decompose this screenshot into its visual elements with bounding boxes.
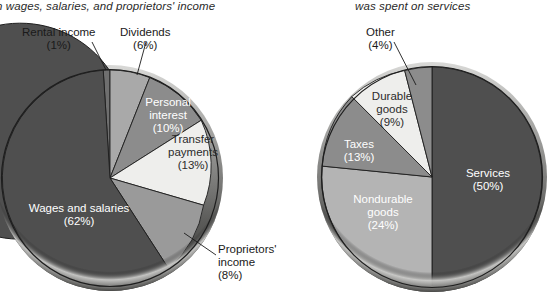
label-wages-and-salaries-value: (62%) — [9, 215, 149, 228]
label-proprietors-income: Proprietors' income (8%) — [218, 243, 276, 283]
label-wages-and-salaries-name: Wages and salaries — [9, 202, 149, 215]
label-rental-income-name: Rental income — [22, 26, 96, 39]
label-personal-interest-name-1: Personal — [133, 96, 203, 109]
label-rental-income-value: (1%) — [22, 39, 96, 52]
label-personal-interest-name-2: interest — [133, 109, 203, 122]
label-nondurable-goods-name-1: Nondurable — [340, 193, 426, 206]
label-dividends-value: (6%) — [120, 39, 171, 52]
label-wages-and-salaries: Wages and salaries (62%) — [9, 202, 149, 228]
label-services-name: Services — [455, 167, 521, 180]
label-taxes-value: (13%) — [331, 151, 387, 164]
label-proprietors-income-name-2: income — [218, 256, 276, 269]
label-durable-goods: Durable goods (9%) — [362, 90, 422, 130]
label-other-name: Other — [366, 26, 395, 39]
label-durable-goods-value: (9%) — [362, 116, 422, 129]
label-rental-income: Rental income (1%) — [22, 26, 96, 52]
label-transfer-payments-name-1: Transfer — [157, 133, 229, 146]
label-dividends: Dividends (6%) — [120, 26, 171, 52]
label-transfer-payments: Transfer payments (13%) — [157, 133, 229, 173]
label-nondurable-goods-value: (24%) — [340, 219, 426, 232]
label-services: Services (50%) — [455, 167, 521, 193]
label-dividends-name: Dividends — [120, 26, 171, 39]
label-taxes: Taxes (13%) — [331, 138, 387, 164]
label-services-value: (50%) — [455, 180, 521, 193]
label-nondurable-goods-name-2: goods — [340, 206, 426, 219]
label-other: Other (4%) — [366, 26, 395, 52]
label-durable-goods-name-2: goods — [362, 103, 422, 116]
label-other-value: (4%) — [366, 39, 395, 52]
label-nondurable-goods: Nondurable goods (24%) — [340, 193, 426, 233]
label-durable-goods-name-1: Durable — [362, 90, 422, 103]
label-proprietors-income-name-1: Proprietors' — [218, 243, 276, 256]
label-taxes-name: Taxes — [331, 138, 387, 151]
label-proprietors-income-value: (8%) — [218, 269, 276, 282]
label-personal-interest: Personal interest (10%) — [133, 96, 203, 136]
two-pie-chart-figure: n wages, salaries, and proprietors' inco… — [0, 0, 555, 297]
label-transfer-payments-value: (13%) — [157, 159, 229, 172]
label-transfer-payments-name-2: payments — [157, 146, 229, 159]
